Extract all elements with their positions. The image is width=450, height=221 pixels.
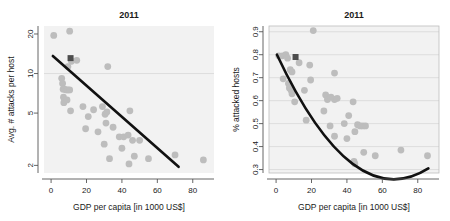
data-point [310,27,317,34]
data-point [345,112,352,119]
x-axis-label: GDP per capita [in 1000 US$] [298,202,410,212]
y-tick-label-6: 0.9 [251,26,260,38]
data-point [301,87,308,94]
data-point [103,109,110,116]
data-point [131,153,138,160]
data-point [320,108,327,115]
data-point [344,135,351,142]
data-point [104,63,111,70]
chart-title: 2011 [344,10,364,20]
data-point [66,28,73,35]
data-point [125,132,132,139]
data-point [95,128,102,135]
data-point [306,62,313,69]
data-point [289,69,296,76]
y-tick-label-1: 0.4 [251,140,260,152]
x-tick-label-4: 80 [413,186,422,195]
y-tick-label-0: 2 [26,163,35,168]
data-point [106,155,113,162]
data-point [200,157,207,164]
data-point [307,77,314,84]
highlight-marker [293,54,299,60]
data-point [80,103,87,110]
data-point [64,96,71,103]
data-point [327,123,334,130]
data-point [351,128,358,135]
data-point [126,161,133,168]
y-tick-label-2: 0.5 [251,118,260,130]
data-point [145,155,152,162]
data-point [103,120,110,127]
y-axis-label: % attacked hosts [231,67,241,132]
data-point [110,124,117,131]
data-point [341,120,348,127]
data-point [291,98,298,105]
x-tick-label-1: 20 [82,186,91,195]
data-point [350,98,357,105]
chart-panel-left: 0204060802510202011GDP per capita [in 10… [0,0,225,221]
data-point [424,152,431,159]
x-tick-label-4: 80 [188,186,197,195]
data-point [99,103,106,110]
x-axis-label: GDP per capita [in 1000 US$] [73,202,185,212]
x-tick-label-0: 0 [49,186,54,195]
chart-title: 2011 [119,10,139,20]
highlight-marker [68,55,74,61]
data-point [85,113,92,120]
data-point [334,95,341,102]
data-point [280,75,287,82]
scatter-plot-right: 0204060800.30.40.50.60.70.80.92011GDP pe… [225,0,450,221]
data-point [101,141,108,148]
data-point [360,149,367,156]
data-point [398,147,405,154]
y-axis-label: Avg. # attacks per host [6,56,16,143]
x-tick-label-3: 60 [153,186,162,195]
y-tick-label-5: 0.8 [251,49,260,61]
data-point [82,125,89,132]
data-point [284,55,291,62]
y-tick-label-3: 0.6 [251,95,260,107]
y-tick-label-2: 10 [26,69,35,78]
data-point [66,87,73,94]
y-tick-label-3: 20 [26,29,35,38]
data-point [119,145,126,152]
x-tick-label-0: 0 [274,186,279,195]
scatter-plot-left: 0204060802510202011GDP per capita [in 10… [0,0,225,221]
y-tick-label-0: 0.3 [251,163,260,175]
data-point [129,137,136,144]
data-point [73,57,80,64]
data-point [296,59,303,66]
data-point [362,123,369,130]
data-point [50,32,57,39]
x-tick-label-2: 40 [342,186,351,195]
data-point [331,133,338,140]
y-tick-label-1: 5 [26,110,35,115]
x-tick-label-1: 20 [307,186,316,195]
data-point [67,107,74,114]
x-tick-label-3: 60 [378,186,387,195]
data-point [126,107,133,114]
x-tick-label-2: 40 [117,186,126,195]
chart-panel-right: 0204060800.30.40.50.60.70.80.92011GDP pe… [225,0,450,221]
data-point [172,152,179,159]
data-point [372,152,379,159]
figure-container: 0204060802510202011GDP per capita [in 10… [0,0,450,221]
data-point [331,70,338,77]
data-point [303,117,310,124]
data-point [90,106,97,113]
y-tick-label-4: 0.7 [251,72,260,84]
data-point [136,137,143,144]
